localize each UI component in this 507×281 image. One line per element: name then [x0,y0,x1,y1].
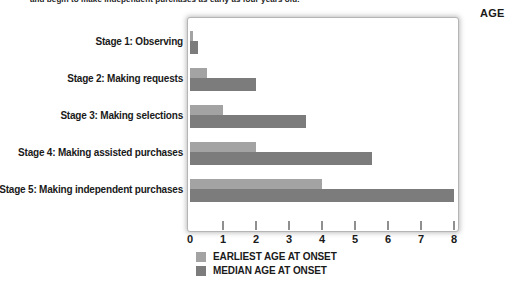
x-axis-tick-3 [288,221,290,230]
x-axis-tick-label-5: 5 [352,233,358,245]
figure-root: and begin to make independent purchases … [0,0,507,281]
plot-area [187,17,459,232]
x-axis-tick-5 [354,221,356,230]
legend-item-earliest: EARLIEST AGE AT ONSET [196,251,337,262]
x-axis-tick-label-6: 6 [385,233,391,245]
x-axis-tick-labels: 012345678 [0,233,507,247]
bar-earliest-stage-2 [190,68,207,78]
bar-median-stage-3 [190,115,306,128]
x-axis-tick-2 [255,221,257,230]
x-axis-tick-label-0: 0 [187,233,193,245]
x-axis-tick-4 [321,221,323,230]
category-label-stage-4: Stage 4: Making assisted purchases [0,147,183,158]
bar-median-stage-4 [190,152,372,165]
legend-swatch-earliest [196,252,206,262]
bar-median-stage-5 [190,189,454,202]
x-axis-tick-8 [453,221,455,230]
x-axis-tick-7 [420,221,422,230]
x-axis-tick-6 [387,221,389,230]
legend: EARLIEST AGE AT ONSETMEDIAN AGE AT ONSET [196,251,337,279]
category-label-stage-1: Stage 1: Observing [0,36,183,47]
bar-earliest-stage-3 [190,105,223,115]
category-labels: Stage 1: ObservingStage 2: Making reques… [0,0,183,240]
category-label-stage-5: Stage 5: Making independent purchases [0,184,183,195]
x-axis-tick-label-3: 3 [286,233,292,245]
x-axis-tick-label-1: 1 [220,233,226,245]
x-axis-title: AGE [480,7,505,19]
x-axis-tick-label-4: 4 [319,233,325,245]
category-label-stage-2: Stage 2: Making requests [0,73,183,84]
x-axis-tick-label-2: 2 [253,233,259,245]
legend-label-median: MEDIAN AGE AT ONSET [213,265,327,276]
x-axis-tick-label-8: 8 [451,233,457,245]
bar-earliest-stage-4 [190,142,256,152]
x-axis-tick-1 [222,221,224,230]
legend-item-median: MEDIAN AGE AT ONSET [196,265,337,276]
bar-median-stage-2 [190,78,256,91]
legend-swatch-median [196,266,206,276]
legend-label-earliest: EARLIEST AGE AT ONSET [213,251,337,262]
bar-earliest-stage-5 [190,179,322,189]
category-label-stage-3: Stage 3: Making selections [0,110,183,121]
x-axis-tick-label-7: 7 [418,233,424,245]
bar-earliest-stage-1 [190,31,193,41]
bar-median-stage-1 [190,41,198,54]
